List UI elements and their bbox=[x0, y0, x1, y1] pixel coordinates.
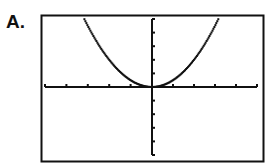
calculator-graph bbox=[0, 0, 273, 164]
